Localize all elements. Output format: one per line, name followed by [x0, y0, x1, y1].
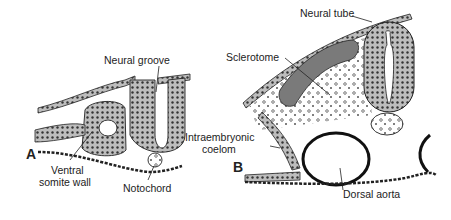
label-sclerotome: Sclerotome	[226, 52, 279, 63]
panel-b-drawing	[243, 14, 436, 190]
label-ventral-somite-wall-2: somite wall	[39, 177, 91, 188]
label-neural-groove: Neural groove	[104, 55, 170, 66]
panel-label-a: A	[26, 146, 36, 162]
label-intraembryonic-1: Intraembryonic	[185, 132, 254, 143]
label-neural-tube: Neural tube	[300, 8, 354, 19]
panel-a-drawing	[35, 66, 190, 180]
label-notochord: Notochord	[123, 183, 171, 194]
panel-label-b: B	[233, 159, 243, 175]
label-dorsal-aorta: Dorsal aorta	[343, 189, 400, 200]
label-ventral-somite-wall-1: Ventral	[51, 165, 84, 176]
label-intraembryonic-2: coelom	[202, 144, 236, 155]
